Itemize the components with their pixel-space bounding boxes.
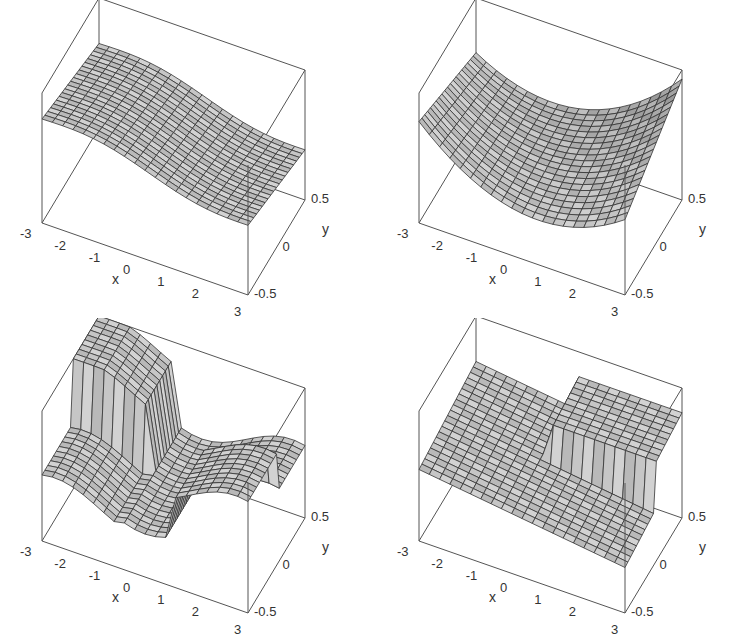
x-axis-label: x [489, 272, 496, 286]
surface-svg [0, 0, 377, 318]
x-tick-label: 1 [157, 593, 164, 606]
x-tick-label: 2 [192, 287, 199, 300]
x-tick-label: 0 [500, 581, 507, 594]
surface-svg [377, 318, 754, 636]
y-tick-label: -0.5 [254, 287, 276, 300]
y-tick-label: 0 [660, 240, 667, 253]
x-tick-label: -1 [89, 569, 101, 582]
surface-plot-bottom-left: -3-2-10123-0.500.5xy [0, 318, 377, 636]
y-axis-label: y [699, 540, 706, 554]
y-tick-label: 0 [660, 558, 667, 571]
x-tick-label: -2 [54, 557, 66, 570]
x-tick-label: 3 [611, 623, 618, 636]
x-axis-label: x [112, 590, 119, 604]
x-tick-label: 2 [192, 605, 199, 618]
x-tick-label: -3 [397, 227, 409, 240]
x-tick-label: -3 [397, 545, 409, 558]
x-tick-label: -1 [466, 251, 478, 264]
y-tick-label: 0.5 [311, 192, 329, 205]
x-axis-label: x [489, 590, 496, 604]
surface-svg [0, 318, 377, 636]
y-tick-label: -0.5 [631, 287, 653, 300]
x-tick-label: 2 [569, 287, 576, 300]
surface-plot-top-left: -3-2-10123-0.500.5xy [0, 0, 377, 318]
x-tick-label: 0 [500, 263, 507, 276]
x-tick-label: 1 [157, 275, 164, 288]
y-tick-label: 0 [283, 558, 290, 571]
y-tick-label: -0.5 [631, 605, 653, 618]
x-tick-label: -2 [431, 557, 443, 570]
y-tick-label: -0.5 [254, 605, 276, 618]
x-axis-label: x [112, 272, 119, 286]
x-tick-label: 3 [234, 623, 241, 636]
x-tick-label: 1 [534, 275, 541, 288]
surface-svg [377, 0, 754, 318]
y-axis-label: y [322, 222, 329, 236]
y-tick-label: 0.5 [688, 510, 706, 523]
x-tick-label: 3 [234, 305, 241, 318]
y-tick-label: 0.5 [688, 192, 706, 205]
x-tick-label: -2 [431, 239, 443, 252]
y-tick-label: 0.5 [311, 510, 329, 523]
x-tick-label: 3 [611, 305, 618, 318]
x-tick-label: 2 [569, 605, 576, 618]
x-tick-label: 0 [123, 581, 130, 594]
y-axis-label: y [699, 222, 706, 236]
y-tick-label: 0 [283, 240, 290, 253]
x-tick-label: -1 [466, 569, 478, 582]
x-tick-label: 1 [534, 593, 541, 606]
y-axis-label: y [322, 540, 329, 554]
x-tick-label: -3 [20, 545, 32, 558]
x-tick-label: -2 [54, 239, 66, 252]
x-tick-label: -1 [89, 251, 101, 264]
surface-plot-bottom-right: -3-2-10123-0.500.5xy [377, 318, 754, 636]
x-tick-label: 0 [123, 263, 130, 276]
surface-plot-top-right: -3-2-10123-0.500.5xy [377, 0, 754, 318]
x-tick-label: -3 [20, 227, 32, 240]
